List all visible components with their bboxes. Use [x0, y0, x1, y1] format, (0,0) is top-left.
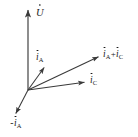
vector-label-ia-plus-ic: iA+iC	[103, 50, 123, 60]
phasor-diagram-figure: U iA iA+iC iC -iA	[0, 0, 138, 137]
vector-label-minus-ia: -iA	[10, 119, 21, 129]
phasor-dot-wrap-u: U	[36, 8, 44, 19]
vector-subscript-ic: C	[93, 79, 97, 86]
vector-subscript-ia: A	[39, 56, 44, 63]
vector-symbol-u: U	[36, 7, 44, 18]
vector-subscript-ic2: C	[119, 53, 123, 60]
overdot-icon	[39, 4, 41, 6]
vector-subscript-ia2: A	[106, 53, 111, 60]
vector-label-ic: iC	[90, 76, 97, 86]
vector-subscript-minus-ia: A	[17, 122, 22, 129]
phasor-vector-canvas	[0, 0, 138, 137]
vector-minus-ia-line	[16, 90, 28, 114]
vector-label-ia: iA	[36, 53, 43, 63]
vector-label-u: U	[36, 8, 44, 19]
